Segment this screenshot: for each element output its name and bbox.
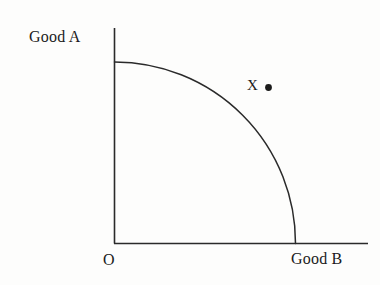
- ppf-diagram: Good A Good B O X: [0, 0, 380, 285]
- x-axis-label: Good B: [291, 251, 342, 267]
- point-x-label: X: [247, 78, 258, 93]
- point-x-marker: [265, 84, 272, 91]
- origin-label: O: [103, 252, 115, 268]
- y-axis-label: Good A: [29, 29, 80, 45]
